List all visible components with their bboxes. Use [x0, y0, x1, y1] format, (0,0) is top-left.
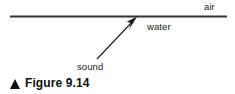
figure-container: air water sound Figure 9.14: [0, 0, 235, 94]
label-water: water: [147, 22, 171, 32]
triangle-up-icon: [10, 79, 20, 89]
figure-caption-text: Figure 9.14: [25, 77, 89, 89]
figure-caption: Figure 9.14: [10, 77, 89, 89]
sound-ray-line: [97, 21, 134, 60]
label-air: air: [204, 2, 215, 12]
label-sound: sound: [77, 62, 103, 72]
arrowhead-icon: [127, 16, 137, 29]
